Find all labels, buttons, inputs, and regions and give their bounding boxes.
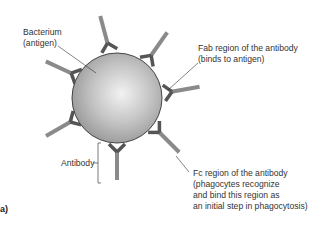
panel-label: a) — [0, 204, 8, 214]
antibody-label: Antibody — [61, 158, 94, 168]
fc-label-line1: Fc region of the antibody — [193, 168, 288, 178]
antibody-bottom-right-icon — [148, 121, 185, 158]
fab-label-line1: Fab region of the antibody — [198, 43, 298, 53]
bacterium-label-line1: Bacterium — [23, 27, 62, 37]
fc-label-line4: an initial step in phagocytosis) — [193, 201, 308, 211]
bacterium-label-line2: (antigen) — [23, 38, 57, 48]
antibody-bottom-icon — [109, 144, 125, 180]
antibody-bracket — [98, 143, 101, 183]
fc-label-line3: and bind this region as — [193, 190, 279, 200]
fc-leader-line — [176, 156, 189, 172]
fc-label-line2: (phagocytes recognize — [193, 179, 279, 189]
antibody-top-icon — [93, 14, 118, 53]
bacterium-sphere — [72, 53, 162, 143]
antibody-top-right-icon — [140, 28, 174, 67]
fab-label-line2: (binds to antigen) — [198, 54, 264, 64]
antibody-bacterium-diagram: Bacterium (antigen) Fab region of the an… — [0, 0, 331, 231]
